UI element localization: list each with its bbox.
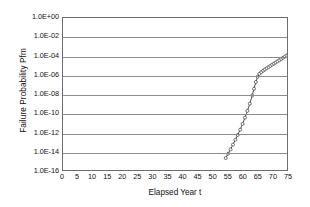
data-point-marker: [231, 143, 234, 146]
y-tick-mark: [62, 114, 63, 115]
y-tick-label: 1.0E-14: [34, 148, 59, 155]
data-point-marker: [229, 148, 232, 151]
x-tick-mark: [259, 170, 260, 171]
y-tick-mark: [62, 18, 63, 19]
data-point-marker: [287, 53, 288, 56]
y-tick-mark: [62, 95, 63, 96]
x-tick-mark: [78, 170, 79, 171]
data-point-marker: [234, 138, 237, 141]
data-point-marker: [224, 157, 227, 160]
y-tick-mark: [62, 134, 63, 135]
y-tick-label: 1.0E-08: [34, 90, 59, 97]
y-tick-label: 1.0E-10: [34, 110, 59, 117]
y-tick-mark: [62, 37, 63, 38]
x-tick-mark: [108, 170, 109, 171]
gridline: [63, 153, 287, 154]
x-tick-mark: [153, 170, 154, 171]
x-tick-label: 15: [103, 173, 111, 181]
y-tick-label: 1.0E-12: [34, 129, 59, 136]
data-point-marker: [253, 87, 256, 90]
x-tick-mark: [214, 170, 215, 171]
x-tick-label: 50: [209, 173, 217, 181]
y-tick-label: 1.0E+00: [32, 13, 59, 20]
y-tick-label: 1.0E-02: [34, 33, 59, 40]
x-tick-label: 0: [60, 173, 64, 181]
x-tick-label: 60: [239, 173, 247, 181]
x-tick-label: 25: [133, 173, 141, 181]
x-tick-mark: [274, 170, 275, 171]
x-tick-mark: [138, 170, 139, 171]
x-tick-label: 65: [254, 173, 262, 181]
gridline: [63, 37, 287, 38]
y-tick-mark: [62, 153, 63, 154]
x-tick-mark: [184, 170, 185, 171]
y-tick-label: 1.0E-06: [34, 71, 59, 78]
y-tick-label: 1.0E-04: [34, 52, 59, 59]
x-tick-label: 45: [194, 173, 202, 181]
data-point-marker: [241, 122, 244, 125]
x-tick-label: 20: [118, 173, 126, 181]
data-point-marker: [248, 102, 251, 105]
x-axis-title: Elapsed Year t: [62, 188, 288, 197]
x-tick-mark: [123, 170, 124, 171]
gridline: [63, 57, 287, 58]
y-tick-mark: [62, 57, 63, 58]
data-point-marker: [239, 128, 242, 131]
x-tick-label: 35: [163, 173, 171, 181]
gridline: [63, 114, 287, 115]
x-tick-mark: [244, 170, 245, 171]
x-tick-label: 10: [88, 173, 96, 181]
x-tick-label: 30: [148, 173, 156, 181]
gridline: [63, 95, 287, 96]
x-tick-label: 55: [224, 173, 232, 181]
x-tick-mark: [63, 170, 64, 171]
data-point-marker: [244, 116, 247, 119]
chart-figure: Failure Probability Pfm 1.0E+001.0E-021.…: [0, 0, 310, 207]
plot-area: [62, 17, 288, 171]
gridline: [63, 134, 287, 135]
x-tick-label: 75: [284, 173, 292, 181]
series-line: [226, 54, 288, 158]
data-point-marker: [246, 109, 249, 112]
x-tick-mark: [199, 170, 200, 171]
x-tick-label: 40: [178, 173, 186, 181]
x-tick-label: 5: [75, 173, 79, 181]
x-axis-tick-labels: 051015202530354045505560657075: [0, 173, 310, 187]
data-point-marker: [254, 81, 257, 84]
x-tick-label: 70: [269, 173, 277, 181]
x-tick-mark: [168, 170, 169, 171]
data-point-marker: [288, 53, 289, 56]
y-tick-mark: [62, 76, 63, 77]
x-tick-mark: [229, 170, 230, 171]
x-tick-mark: [93, 170, 94, 171]
gridline: [63, 76, 287, 77]
